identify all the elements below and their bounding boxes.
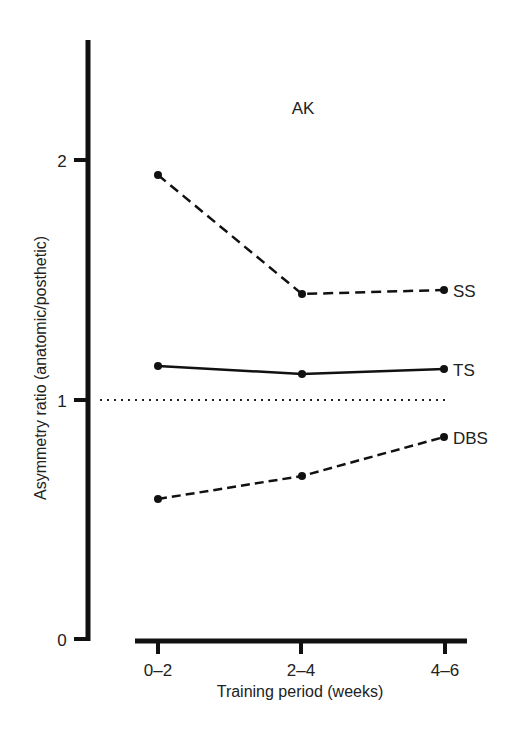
y-tick-label-2: 2 xyxy=(57,152,66,171)
series-label-ss: SS xyxy=(453,282,476,301)
x-tick-label-3: 4–6 xyxy=(431,661,459,680)
series-label-ts: TS xyxy=(453,361,475,380)
x-tick-label-2: 2–4 xyxy=(287,661,315,680)
y-tick-label-1: 1 xyxy=(57,392,66,411)
series-ts: TS xyxy=(154,361,475,380)
series-dbs: DBS xyxy=(154,429,488,503)
y-axis-label: Asymmetry ratio (anatomic/posthetic) xyxy=(32,236,49,500)
series-ss: SS xyxy=(154,171,476,301)
x-axis-label: Training period (weeks) xyxy=(217,683,384,700)
chart-title: AK xyxy=(292,99,315,118)
chart: 2 1 0 Asymmetry ratio (anatomic/postheti… xyxy=(0,0,514,731)
x-tick-label-1: 0–2 xyxy=(144,661,172,680)
series-label-dbs: DBS xyxy=(453,429,488,448)
y-tick-label-0: 0 xyxy=(57,631,66,650)
